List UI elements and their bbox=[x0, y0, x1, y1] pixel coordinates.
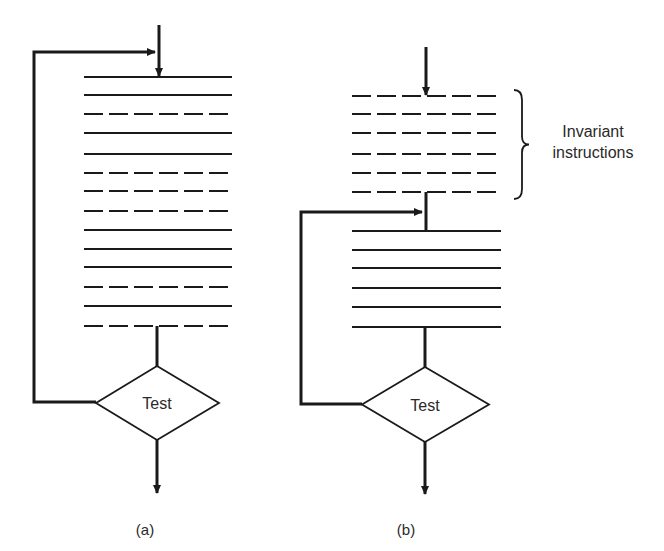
test-decision: Test bbox=[96, 366, 219, 440]
annotation-line-1: Invariant bbox=[562, 123, 624, 140]
test-decision: Test bbox=[362, 367, 489, 442]
curly-brace-icon bbox=[514, 90, 529, 199]
annotation-line-2: instructions bbox=[553, 144, 634, 161]
panel-b-hoisted-loop: Test Invariant instructions (b) bbox=[301, 47, 633, 538]
invariant-instructions-block bbox=[352, 96, 501, 192]
loop-invariant-diagram: Test (a) Test Invariant instructions (b) bbox=[0, 0, 664, 551]
loop-body-instructions bbox=[352, 231, 501, 327]
loop-body-instructions bbox=[84, 77, 232, 326]
panel-caption-a: (a) bbox=[136, 521, 154, 538]
panel-caption-b: (b) bbox=[397, 521, 415, 538]
loop-back-arrow-icon bbox=[34, 52, 155, 402]
panel-a-unoptimized-loop: Test (a) bbox=[34, 25, 232, 538]
test-label: Test bbox=[142, 395, 172, 412]
test-label: Test bbox=[410, 397, 440, 414]
